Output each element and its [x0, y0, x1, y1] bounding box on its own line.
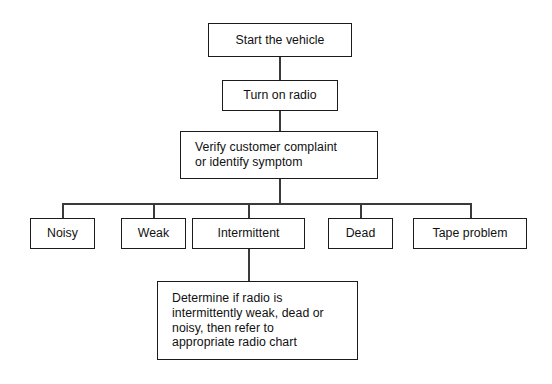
node-determine-if-radio[interactable]: Determine if radio is intermittently wea…	[157, 281, 358, 360]
node-intermittent-label: Intermittent	[217, 226, 279, 241]
node-verify-customer-complaint-label: Verify customer complaint or identify sy…	[195, 140, 337, 169]
node-start-the-vehicle-label: Start the vehicle	[235, 33, 324, 48]
node-dead[interactable]: Dead	[328, 218, 393, 249]
node-determine-if-radio-label: Determine if radio is intermittently wea…	[172, 291, 324, 349]
connector-start-to-turn-on-radio	[279, 56, 281, 80]
node-tape-problem-label: Tape problem	[432, 226, 507, 241]
node-turn-on-radio[interactable]: Turn on radio	[222, 80, 338, 111]
branch-distribution-bar	[62, 203, 471, 205]
node-noisy[interactable]: Noisy	[30, 218, 95, 249]
connector-bar-to-intermittent	[248, 203, 250, 219]
node-weak[interactable]: Weak	[121, 218, 186, 249]
connector-turn-on-radio-to-verify	[279, 110, 281, 131]
node-intermittent[interactable]: Intermittent	[192, 218, 305, 249]
node-verify-customer-complaint[interactable]: Verify customer complaint or identify sy…	[180, 131, 378, 179]
connector-verify-to-branch-bar	[279, 178, 281, 203]
node-turn-on-radio-label: Turn on radio	[243, 88, 316, 103]
node-dead-label: Dead	[346, 226, 376, 241]
connector-bar-to-weak	[153, 203, 155, 219]
connector-intermittent-to-determine	[248, 248, 250, 281]
node-start-the-vehicle[interactable]: Start the vehicle	[208, 23, 352, 57]
node-tape-problem[interactable]: Tape problem	[413, 218, 527, 249]
flowchart-canvas: Start the vehicle Turn on radio Verify c…	[0, 0, 552, 384]
node-weak-label: Weak	[138, 226, 169, 241]
connector-bar-to-dead	[360, 203, 362, 219]
connector-bar-to-noisy	[62, 203, 64, 219]
connector-bar-to-tape-problem	[470, 203, 472, 219]
node-noisy-label: Noisy	[47, 226, 78, 241]
